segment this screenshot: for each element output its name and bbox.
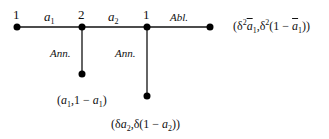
player-label-1b: 1: [143, 8, 150, 21]
node-player2: [79, 24, 86, 31]
action-label-accept-1: Ann.: [50, 48, 70, 59]
terminal-node-t3: [207, 24, 214, 31]
terminal-node-t2: [144, 93, 151, 100]
payoff-t3: (δ2a1,δ2(1 − a1)): [233, 19, 310, 35]
offer-label-a1: a1: [44, 10, 55, 26]
player-label-2: 2: [78, 8, 85, 21]
player-label-1a: 1: [13, 8, 20, 21]
action-label-reject: Abl.: [170, 12, 188, 23]
payoff-t1: (a1,1 − a1): [57, 94, 107, 109]
terminal-node-t1: [79, 71, 86, 78]
node-player1-start: [14, 24, 21, 31]
offer-label-a2: a2: [108, 10, 119, 26]
payoff-t2: (δa2,δ(1 − a2)): [111, 118, 180, 133]
node-player1-second: [144, 24, 151, 31]
action-label-accept-2: Ann.: [115, 48, 135, 59]
